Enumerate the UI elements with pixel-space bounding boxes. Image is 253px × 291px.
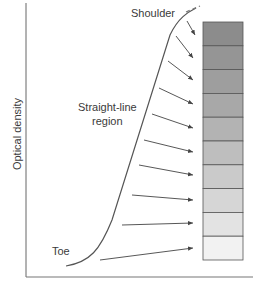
shoulder-label: Shoulder <box>131 7 175 19</box>
wedge-step-3 <box>203 70 243 94</box>
wedge-step-7 <box>203 165 243 189</box>
arrow-5 <box>152 114 193 128</box>
wedge-step-5 <box>203 117 243 141</box>
characteristic-curve-diagram <box>0 0 253 291</box>
wedge-step-10 <box>203 236 243 260</box>
arrow-7 <box>139 165 193 175</box>
straight-line-label: Straight-line <box>78 101 137 113</box>
arrow-4 <box>159 88 193 104</box>
step-wedge <box>203 22 243 260</box>
arrow-9 <box>122 223 193 225</box>
arrow-1 <box>187 21 195 35</box>
arrow-10 <box>100 248 193 260</box>
wedge-step-8 <box>203 189 243 213</box>
arrow-3 <box>168 61 193 80</box>
shoulder-dashes <box>186 6 200 12</box>
y-axis-label: Optical density <box>11 89 23 179</box>
arrows <box>100 21 195 260</box>
arrow-8 <box>132 195 193 200</box>
wedge-step-6 <box>203 141 243 165</box>
wedge-step-4 <box>203 93 243 117</box>
wedge-step-1 <box>203 22 243 46</box>
arrow-6 <box>144 140 193 152</box>
toe-label: Toe <box>52 245 70 257</box>
wedge-step-9 <box>203 212 243 236</box>
region-label: region <box>92 115 123 127</box>
arrow-2 <box>176 36 193 58</box>
characteristic-curve <box>66 8 196 266</box>
wedge-step-2 <box>203 46 243 70</box>
